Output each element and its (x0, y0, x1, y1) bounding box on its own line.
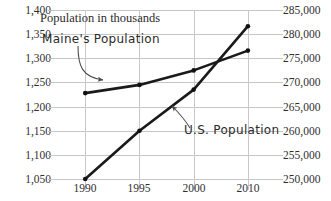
right-axis-tick: 270,000 (283, 76, 320, 88)
gridline (57, 179, 274, 180)
right-axis-tick: 260,000 (283, 125, 320, 137)
x-axis-tick-2010: 2010 (237, 182, 260, 194)
series-label-maine-population: Maine's Population (42, 32, 160, 46)
series-label-us-population: U.S. Population (184, 123, 279, 137)
right-axis-tick: 265,000 (283, 101, 320, 113)
data-point-maine-1995 (137, 83, 142, 88)
data-point-maine-2010 (246, 48, 251, 53)
data-point-maine-1990 (83, 91, 88, 96)
right-axis-tick: 275,000 (283, 52, 320, 64)
right-axis-tick-labels: 285,000 280,000 275,000 270,000 265,000 … (283, 10, 331, 179)
data-point-us-2000 (191, 87, 196, 92)
us-population-line (85, 26, 248, 179)
x-axis-tick-1990: 1990 (74, 182, 97, 194)
right-axis-tick: 280,000 (283, 28, 320, 40)
maine-population-line (85, 51, 248, 94)
right-axis-tick: 255,000 (283, 149, 320, 161)
x-axis-tick-1995: 1995 (128, 182, 151, 194)
right-axis-tick: 285,000 (283, 4, 320, 16)
data-point-maine-2000 (191, 68, 196, 73)
population-line-chart: 1,400 1,350 1,300 1,250 1,200 1,150 1,10… (0, 0, 331, 201)
data-point-us-2010 (246, 24, 251, 29)
right-axis-tick: 250,000 (283, 173, 320, 185)
data-point-us-1990 (83, 177, 88, 182)
data-point-us-1995 (137, 128, 142, 133)
axis-caption-population-in-thousands: Population in thousands (40, 11, 160, 26)
x-axis-tick-2000: 2000 (183, 182, 206, 194)
